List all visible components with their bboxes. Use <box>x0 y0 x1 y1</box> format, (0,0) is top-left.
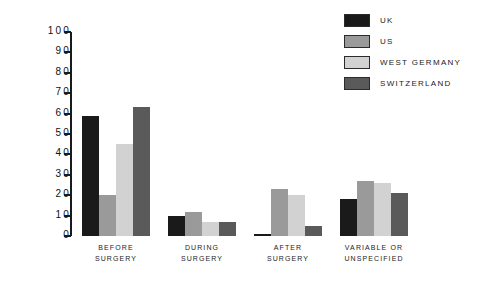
x-axis-category-label-line: VARIABLE OR <box>314 242 434 253</box>
bar-west-germany <box>374 183 391 236</box>
bar-switzerland <box>305 226 322 236</box>
y-axis-tick-label: 60 <box>17 108 71 118</box>
y-axis-tick-label: 100 <box>17 26 71 36</box>
y-axis-tick-label: 0 <box>17 230 71 240</box>
y-axis-tick: 10 <box>0 215 71 217</box>
y-axis-tick-mark <box>64 215 71 217</box>
y-axis-tick-mark <box>64 133 71 135</box>
legend-item-label: WEST GERMANY <box>380 58 461 67</box>
y-axis-tick-label: 40 <box>17 148 71 158</box>
y-axis-tick-mark <box>64 174 71 176</box>
bar-us <box>99 195 116 236</box>
y-axis-tick: 30 <box>0 174 71 176</box>
bar-group-bars <box>168 32 236 236</box>
bar-uk <box>82 116 99 236</box>
y-axis-tick: 0 <box>0 235 71 237</box>
legend-item: WEST GERMANY <box>344 54 494 71</box>
bar-west-germany <box>288 195 305 236</box>
legend-item: SWITZERLAND <box>344 75 494 92</box>
y-axis-tick-mark <box>64 113 71 115</box>
legend-item-label: SWITZERLAND <box>380 79 452 88</box>
legend-item: UK <box>344 12 494 29</box>
bar-group: AFTERSURGERY <box>254 32 322 236</box>
bar-us <box>185 212 202 236</box>
y-axis-tick-label: 70 <box>17 87 71 97</box>
legend-color-swatch <box>344 14 370 27</box>
y-axis-tick-mark <box>64 235 71 237</box>
bar-group-bars <box>82 32 150 236</box>
x-axis-category-label: VARIABLE ORUNSPECIFIED <box>314 242 434 264</box>
y-axis-tick-mark <box>64 72 71 74</box>
bar-chart: 1009080706050403020100 BEFORESURGERYDURI… <box>0 0 501 283</box>
y-axis-tick: 80 <box>0 72 71 74</box>
bar-uk <box>254 234 271 236</box>
y-axis-tick-label: 90 <box>17 46 71 56</box>
bar-us <box>357 181 374 236</box>
y-axis-tick: 90 <box>0 51 71 53</box>
bar-west-germany <box>116 144 133 236</box>
y-axis-tick: 60 <box>0 113 71 115</box>
y-axis-tick-mark <box>64 31 71 33</box>
y-axis-tick-label: 10 <box>17 210 71 220</box>
y-axis-tick: 70 <box>0 92 71 94</box>
bar-group: BEFORESURGERY <box>82 32 150 236</box>
legend-item-label: UK <box>380 16 394 25</box>
y-axis-tick: 50 <box>0 133 71 135</box>
bar-uk <box>340 199 357 236</box>
y-axis-tick-label: 50 <box>17 128 71 138</box>
y-axis-tick: 20 <box>0 194 71 196</box>
y-axis-tick-mark <box>64 51 71 53</box>
bar-west-germany <box>202 222 219 236</box>
legend-color-swatch <box>344 77 370 90</box>
y-axis-tick: 40 <box>0 153 71 155</box>
bar-group: DURINGSURGERY <box>168 32 236 236</box>
plot-area: BEFORESURGERYDURINGSURGERYAFTERSURGERYVA… <box>72 32 372 236</box>
y-axis-tick-mark <box>64 194 71 196</box>
bar-uk <box>168 216 185 236</box>
y-axis-tick: 100 <box>0 31 71 33</box>
y-axis-tick-label: 20 <box>17 189 71 199</box>
x-axis-category-label-line: UNSPECIFIED <box>314 253 434 264</box>
bar-us <box>271 189 288 236</box>
legend-color-swatch <box>344 56 370 69</box>
bar-switzerland <box>391 193 408 236</box>
bar-group-bars <box>254 32 322 236</box>
legend-item: US <box>344 33 494 50</box>
legend-color-swatch <box>344 35 370 48</box>
chart-legend: UKUSWEST GERMANYSWITZERLAND <box>344 12 494 96</box>
bar-switzerland <box>133 107 150 236</box>
y-axis-tick-mark <box>64 153 71 155</box>
bar-switzerland <box>219 222 236 236</box>
y-axis-tick-label: 30 <box>17 169 71 179</box>
y-axis-tick-label: 80 <box>17 67 71 77</box>
y-axis-tick-mark <box>64 92 71 94</box>
legend-item-label: US <box>380 37 394 46</box>
